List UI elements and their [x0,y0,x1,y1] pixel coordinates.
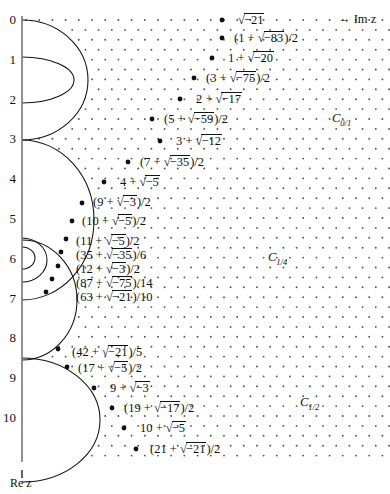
lattice-dot [289,395,291,397]
lattice-dot [117,455,119,457]
lattice-dot [144,118,146,120]
lattice-dot [329,177,331,179]
lattice-dot [190,49,192,51]
lattice-dot [111,187,113,189]
axis-tick-9: 9 [0,370,16,386]
lattice-dot [98,168,100,170]
lattice-dot [335,168,337,170]
labelled-point-dot [110,406,115,411]
lattice-dot [144,455,146,457]
labelled-point-dot [56,264,61,269]
lattice-dot [197,197,199,199]
lattice-dot [289,78,291,80]
lattice-dot [170,197,172,199]
lattice-dot [276,237,278,239]
lattice-dot [375,267,377,269]
lattice-dot [124,69,126,71]
lattice-dot [164,306,166,308]
lattice-dot [111,306,113,308]
lattice-dot [223,138,225,140]
point-label: (17 + √−5)/2 [78,361,142,376]
lattice-dot [223,59,225,61]
lattice-dot [164,207,166,209]
lattice-dot [197,276,199,278]
lattice-dot [230,306,232,308]
lattice-dot [315,435,317,437]
lattice-dot [348,187,350,189]
lattice-dot [276,435,278,437]
lattice-dot [104,138,106,140]
lattice-dot [315,356,317,358]
lattice-dot [368,158,370,160]
lattice-dot [177,306,179,308]
lattice-dot [236,158,238,160]
lattice-dot [137,49,139,51]
lattice-dot [157,98,159,100]
lattice-dot [230,88,232,90]
lattice-dot [302,356,304,358]
lattice-dot [309,267,311,269]
lattice-dot [381,98,383,100]
labelled-point-dot [70,219,75,224]
lattice-dot [329,336,331,338]
lattice-dot [368,316,370,318]
lattice-dot [282,425,284,427]
lattice-dot [302,257,304,259]
lattice-dot [249,257,251,259]
lattice-dot [170,138,172,140]
lattice-dot [216,128,218,130]
lattice-dot [98,108,100,110]
lattice-dot [131,98,133,100]
lattice-dot [263,158,265,160]
lattice-dot [230,286,232,288]
lattice-dot [256,187,258,189]
lattice-dot [362,286,364,288]
lattice-dot [124,49,126,51]
lattice-dot [368,118,370,120]
lattice-dot [282,108,284,110]
lattice-dot [296,445,298,447]
lattice-dot [124,108,126,110]
axis-tick-5: 5 [0,211,16,227]
lattice-dot [322,168,324,170]
lattice-dot [375,108,377,110]
lattice-dot [289,276,291,278]
lattice-dot [137,108,139,110]
point-label: (1 + √−83)/2 [234,31,298,46]
lattice-dot [263,356,265,358]
lattice-dot [342,336,344,338]
lattice-dot [236,257,238,259]
lattice-dot [335,69,337,71]
lattice-dot [315,59,317,61]
lattice-dot [144,78,146,80]
lattice-dot [111,168,113,170]
lattice-dot [190,366,192,368]
lattice-dot [348,385,350,387]
lattice-dot [236,415,238,417]
lattice-dot [190,207,192,209]
lattice-dot [296,88,298,90]
lattice-dot [375,306,377,308]
axis-tick-7: 7 [0,291,16,307]
arc-1-2 [22,57,74,103]
labelled-point-dot [59,250,64,255]
lattice-dot [137,88,139,90]
lattice-dot [329,217,331,219]
lattice-dot [329,356,331,358]
lattice-dot [302,197,304,199]
lattice-dot [362,207,364,209]
lattice-dot [157,39,159,41]
lattice-dot [302,415,304,417]
lattice-dot [243,128,245,130]
lattice-dot [263,336,265,338]
lattice-dot [104,39,106,41]
lattice-dot [289,237,291,239]
lattice-dot [362,405,364,407]
complex-plane-figure: 012345678910 Re z → Im z √−21(1 + √−83)/… [0,0,390,494]
lattice-dot [302,217,304,219]
lattice-dot [65,356,67,358]
lattice-dot [104,177,106,179]
lattice-dot [230,247,232,249]
lattice-dot [348,366,350,368]
lattice-dot [302,177,304,179]
